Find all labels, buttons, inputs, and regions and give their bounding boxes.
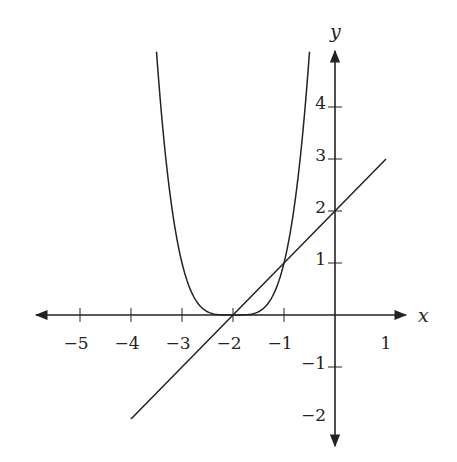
y-tick-label: 4 [315,93,326,113]
y-axis-label: y [329,20,341,42]
x-tick-label: −2 [216,333,241,353]
x-tick-label: −4 [114,333,139,353]
y-tick-label: 2 [315,197,326,217]
chart-canvas: −5−4−3−2−11 4321−1−2 x y [0,0,457,462]
y-tick-label: 3 [315,145,326,165]
y-tick-label: 1 [315,249,326,269]
series-layer [131,52,386,419]
y-tick-label: −1 [301,353,326,373]
y-axis-tick-labels: 4321−1−2 [301,93,326,425]
y-tick-label: −2 [301,405,326,425]
x-tick-label: 1 [381,333,392,353]
x-axis-label: x [418,304,429,326]
x-tick-label: −3 [165,333,190,353]
x-tick-label: −1 [267,333,292,353]
x-axis-tick-labels: −5−4−3−2−11 [63,333,391,353]
linear-line [131,159,386,419]
quartic-curve [157,52,310,315]
x-tick-label: −5 [63,333,88,353]
